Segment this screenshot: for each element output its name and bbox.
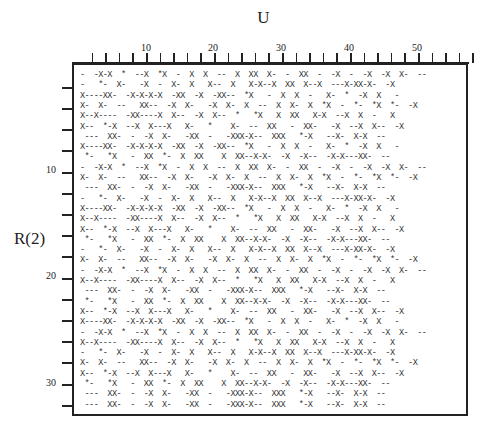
matrix-row: X--X---- -XX----X X-- -X X-- * *X X XX X… (80, 214, 394, 224)
matrix-row: --- XX- - -X X- -XX - -XXX-X-- XXX *-X -… (80, 132, 385, 142)
y-tick (62, 235, 72, 237)
x-tick (391, 53, 393, 63)
x-tick (472, 53, 474, 63)
x-tick (173, 53, 175, 63)
matrix-row: X--X---- -XX----X X-- -X X-- * *X X XX X… (80, 111, 394, 121)
x-tick-label-10: 10 (141, 42, 151, 53)
matrix-row: X-- *-X --X X---X X- * X- -- XX - XX- -X… (80, 369, 404, 379)
y-tick (62, 299, 72, 301)
matrix-row: X----XX- -X-X-X-X -XX -X -XX-- *X - X X … (80, 204, 399, 214)
matrix-row: X- X- -- XX-- -X X- -X X- X -- X X- X *X… (80, 255, 417, 265)
matrix-row: - *- X- -X - X- X X-- X X-X--X XX X--X -… (80, 348, 394, 358)
x-tick (228, 53, 230, 63)
x-tick (445, 53, 447, 63)
x-tick (404, 53, 406, 63)
x-tick-label-20: 20 (208, 42, 218, 53)
x-tick (364, 53, 366, 63)
matrix-row: - *- X- -X - X- X X-- X X-X--X XX X--X -… (80, 80, 394, 90)
y-tick-label-20: 20 (30, 270, 56, 281)
x-tick (309, 53, 311, 63)
matrix-row: X-- *-X --X X---X X- * X- -- XX - XX- -X… (80, 307, 404, 317)
x-tick (432, 53, 434, 63)
y-tick (62, 256, 72, 258)
x-tick (296, 53, 298, 63)
x-tick (105, 53, 107, 63)
matrix-row: *- *X - XX *- X XX X XX--X-X- -X -X-- -X… (80, 297, 390, 307)
matrix-row: X--X---- -XX----X X-- -X X-- * *X X XX X… (80, 338, 394, 348)
y-tick (62, 172, 72, 174)
y-tick (62, 278, 72, 280)
matrix-row: - -X-X * --X *X - X X -- X XX X- - XX - … (80, 70, 426, 80)
matrix-row: X----XX- -X-X-X-X -XX -X -XX-- *X - X X … (80, 91, 399, 101)
x-tick (336, 53, 338, 63)
x-tick (377, 53, 379, 63)
matrix-row: - -X-X * --X *X - X X -- X XX X- - XX - … (80, 266, 426, 276)
x-axis-title: U (0, 8, 487, 28)
x-tick (282, 53, 284, 63)
matrix-row: X- X- -- XX-- -X X- -X X- X -- X X- X *X… (80, 173, 417, 183)
y-tick (62, 150, 72, 152)
matrix-row: X- X- -- XX-- -X X- -X X- X -- X X- X *X… (80, 358, 417, 368)
matrix-row: --- XX- - -X X- -XX - -XXX-X-- XXX *-X -… (80, 286, 385, 296)
matrix-row: X----XX- -X-X-X-X -XX -X -XX-- *X - X X … (80, 317, 399, 327)
matrix-row: X----XX- -X-X-X-X -XX -X -XX-- *X - X X … (80, 142, 399, 152)
matrix-row: *- *X - XX *- X XX X XX--X-X- -X -X-- -X… (80, 152, 390, 162)
matrix-row: X--X---- -XX----X X-- -X X-- * *X X XX X… (80, 276, 394, 286)
y-tick (62, 320, 72, 322)
matrix-row: X-- *-X --X X---X X- * X- -- XX - XX- -X… (80, 225, 404, 235)
x-tick (323, 53, 325, 63)
y-tick (62, 362, 72, 364)
x-tick-label-30: 30 (276, 42, 286, 53)
x-tick (241, 53, 243, 63)
y-tick (62, 87, 72, 89)
matrix-row: *- *X - XX *- X XX X XX--X-X- -X -X-- -X… (80, 379, 390, 389)
matrix-row: - *- X- -X - X- X X-- X X-X--X XX X--X -… (80, 194, 394, 204)
x-tick-label-50: 50 (412, 42, 422, 53)
x-tick (187, 53, 189, 63)
x-tick (146, 53, 148, 63)
x-tick-label-40: 40 (344, 42, 354, 53)
matrix-row: - *- X- -X - X- X X-- X X-X--X XX X--X -… (80, 245, 394, 255)
y-tick (62, 193, 72, 195)
x-tick (268, 53, 270, 63)
x-tick (160, 53, 162, 63)
x-tick (418, 53, 420, 63)
x-tick (214, 53, 216, 63)
y-tick-label-10: 10 (30, 164, 56, 175)
y-tick (62, 214, 72, 216)
matrix-row: X-- *-X --X X---X X- * X- -- XX - XX- -X… (80, 122, 404, 132)
y-axis-title: R(2) (14, 229, 45, 249)
y-tick (62, 384, 72, 386)
matrix-row: --- XX- - -X X- -XX - -XXX-X-- XXX *-X -… (80, 400, 385, 410)
x-tick (132, 53, 134, 63)
matrix-row: --- XX- - -X X- -XX - -XXX-X-- XXX *-X -… (80, 389, 385, 399)
y-tick-label-30: 30 (30, 377, 56, 388)
matrix-row: *- *X - XX *- X XX X XX--X-X- -X -X-- -X… (80, 235, 390, 245)
x-tick (92, 53, 94, 63)
y-tick (62, 129, 72, 131)
x-tick (459, 53, 461, 63)
x-tick (200, 53, 202, 63)
x-tick (255, 53, 257, 63)
y-tick (62, 341, 72, 343)
y-tick (62, 405, 72, 407)
x-tick (119, 53, 121, 63)
matrix-row: --- XX- - -X X- -XX - -XXX-X-- XXX *-X -… (80, 183, 385, 193)
x-tick (350, 53, 352, 63)
matrix-row: X- X- -- XX-- -X X- -X X- X -- X X- X *X… (80, 101, 417, 111)
matrix-row: - -X-X * --X *X - X X -- X XX X- - XX - … (80, 163, 426, 173)
matrix-row: - -X-X * --X *X - X X -- X XX X- - XX - … (80, 328, 426, 338)
y-tick (62, 108, 72, 110)
